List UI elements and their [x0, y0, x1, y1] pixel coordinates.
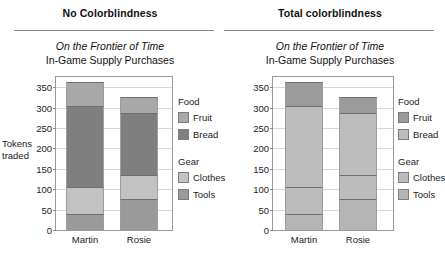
legend-swatch-bread	[398, 129, 409, 140]
panel-title: Total colorblindness	[220, 7, 440, 19]
bar-segment-bread[interactable]	[339, 113, 377, 175]
y-axis-tick	[53, 230, 56, 231]
x-axis-label: Martin	[285, 234, 323, 245]
bar-segment-tools[interactable]	[285, 214, 323, 230]
y-axis-tick-label: 300	[253, 102, 269, 113]
bar-segment-clothes[interactable]	[339, 175, 377, 199]
y-axis-tick-label: 200	[36, 143, 52, 154]
panel-no-colorblindness: No Colorblindness On the Frontier of Tim…	[0, 0, 220, 267]
chart-subtitle: In-Game Supply Purchases	[220, 54, 440, 66]
y-axis-tick	[53, 108, 56, 109]
bar-segment-clothes[interactable]	[66, 187, 104, 214]
x-axis-label: Martin	[66, 234, 104, 245]
panel-title: No Colorblindness	[0, 7, 220, 19]
bar-segment-fruit[interactable]	[339, 97, 377, 113]
legend-label-tools: Tools	[193, 189, 215, 200]
bar-segment-fruit[interactable]	[285, 82, 323, 106]
legend-label-fruit: Fruit	[193, 112, 212, 123]
x-axis-label: Rosie	[339, 234, 377, 245]
y-axis-tick	[270, 148, 273, 149]
legend: Food Fruit Bread Gear Clothes Tools	[178, 96, 220, 203]
legend-swatch-clothes	[178, 172, 189, 183]
legend-group-gear-title: Gear	[178, 156, 220, 167]
y-axis-tick-label: 100	[36, 184, 52, 195]
y-axis-tick-label: 0	[47, 225, 52, 236]
legend-label-bread: Bread	[193, 129, 218, 140]
y-axis-tick-label: 150	[253, 163, 269, 174]
bar-segment-tools[interactable]	[120, 199, 158, 230]
legend-label-bread: Bread	[413, 129, 438, 140]
y-axis-tick-label: 150	[36, 163, 52, 174]
bar-segment-bread[interactable]	[120, 113, 158, 175]
bar-segment-fruit[interactable]	[120, 97, 158, 113]
y-axis-tick-label: 300	[36, 102, 52, 113]
bar-segment-clothes[interactable]	[285, 187, 323, 214]
legend-label-fruit: Fruit	[413, 112, 432, 123]
legend: Food Fruit Bread Gear Clothes Tools	[398, 96, 440, 203]
bar-segment-bread[interactable]	[66, 106, 104, 188]
y-axis-tick-label: 50	[258, 204, 269, 215]
y-axis-tick-label: 200	[253, 143, 269, 154]
bar-rosie[interactable]: Rosie	[339, 97, 377, 230]
bar-segment-fruit[interactable]	[66, 82, 104, 106]
y-axis-tick-label: 250	[36, 123, 52, 134]
legend-item-clothes[interactable]: Clothes	[398, 169, 440, 185]
y-axis-tick	[270, 87, 273, 88]
y-axis-tick	[270, 210, 273, 211]
legend-swatch-bread	[178, 129, 189, 140]
y-axis-tick-label: 250	[253, 123, 269, 134]
panel-divider	[14, 30, 214, 31]
y-axis-tick	[53, 169, 56, 170]
y-axis-tick	[53, 87, 56, 88]
legend-spacer	[398, 143, 440, 156]
bar-martin[interactable]: Martin	[66, 82, 104, 230]
y-axis-tick	[53, 189, 56, 190]
bar-martin[interactable]: Martin	[285, 82, 323, 230]
y-axis-tick	[53, 148, 56, 149]
chart-title: On the Frontier of Time	[0, 40, 220, 52]
y-axis-tick-label: 0	[264, 225, 269, 236]
y-axis-tick	[53, 128, 56, 129]
y-axis-tick	[53, 210, 56, 211]
bar-rosie[interactable]: Rosie	[120, 97, 158, 230]
chart-title: On the Frontier of Time	[220, 40, 440, 52]
plot-area: 050100150200250300350MartinRosie	[272, 76, 394, 231]
y-axis-tick	[270, 189, 273, 190]
y-axis-tick	[270, 108, 273, 109]
legend-group-food-title: Food	[178, 96, 220, 107]
legend-label-tools: Tools	[413, 189, 435, 200]
legend-swatch-tools	[398, 189, 409, 200]
y-axis-tick-label: 50	[41, 204, 52, 215]
bar-segment-tools[interactable]	[66, 214, 104, 230]
legend-item-bread[interactable]: Bread	[178, 126, 220, 142]
legend-spacer	[178, 143, 220, 156]
legend-item-tools[interactable]: Tools	[178, 186, 220, 202]
panel-divider	[224, 30, 434, 31]
y-axis-tick	[270, 128, 273, 129]
legend-swatch-fruit	[178, 112, 189, 123]
legend-item-clothes[interactable]: Clothes	[178, 169, 220, 185]
legend-group-gear-title: Gear	[398, 156, 440, 167]
legend-item-tools[interactable]: Tools	[398, 186, 440, 202]
y-axis-tick	[270, 230, 273, 231]
legend-group-food-title: Food	[398, 96, 440, 107]
legend-item-fruit[interactable]: Fruit	[398, 109, 440, 125]
bar-segment-clothes[interactable]	[120, 175, 158, 199]
y-axis-tick-label: 100	[253, 184, 269, 195]
chart-subtitle: In-Game Supply Purchases	[0, 54, 220, 66]
legend-swatch-tools	[178, 189, 189, 200]
plot-area: 050100150200250300350MartinRosie	[55, 76, 173, 231]
y-axis-tick-label: 350	[36, 82, 52, 93]
legend-item-fruit[interactable]: Fruit	[178, 109, 220, 125]
bar-segment-tools[interactable]	[339, 199, 377, 230]
legend-label-clothes: Clothes	[413, 172, 445, 183]
legend-swatch-fruit	[398, 112, 409, 123]
legend-item-bread[interactable]: Bread	[398, 126, 440, 142]
bar-segment-bread[interactable]	[285, 106, 323, 188]
y-axis-tick	[270, 169, 273, 170]
panel-total-colorblindness: Total colorblindness On the Frontier of …	[220, 0, 440, 267]
x-axis-label: Rosie	[120, 234, 158, 245]
y-axis-tick-label: 350	[253, 82, 269, 93]
legend-swatch-clothes	[398, 172, 409, 183]
